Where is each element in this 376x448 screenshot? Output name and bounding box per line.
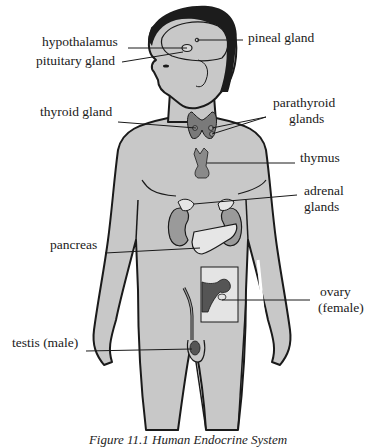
ovary-detail	[218, 294, 226, 300]
figure-caption: Figure 11.1 Human Endocrine System	[0, 432, 376, 448]
label-thymus: thymus	[300, 150, 340, 165]
label-pituitary-gland: pituitary gland	[36, 53, 115, 68]
label-parathyroid-line1: parathyroid	[273, 95, 335, 110]
label-hypothalamus: hypothalamus	[42, 34, 118, 49]
kidney-left	[168, 208, 188, 246]
body-outline	[93, 15, 290, 430]
label-pancreas: pancreas	[50, 237, 97, 252]
testis	[190, 341, 200, 355]
brain	[161, 22, 227, 61]
label-thyroid-gland: thyroid gland	[40, 104, 112, 119]
label-pineal-gland: pineal gland	[248, 30, 314, 45]
eye	[163, 65, 169, 68]
label-parathyroid-line2: glands	[289, 111, 324, 126]
label-ovary-line1: ovary	[320, 284, 351, 299]
label-adrenal-line2: glands	[304, 199, 339, 214]
label-adrenal-line1: adrenal	[304, 183, 344, 198]
label-ovary-line2: (female)	[318, 300, 364, 315]
label-testis: testis (male)	[12, 335, 78, 350]
